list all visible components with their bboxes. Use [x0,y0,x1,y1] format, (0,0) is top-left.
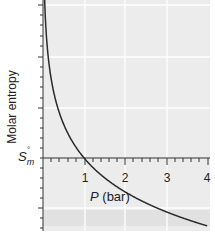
origin-label-base: S [18,149,27,164]
x-tick-label-4: 4 [204,171,211,185]
x-axis-label: P (bar) [90,189,130,204]
chart-canvas [0,0,215,243]
x-tick-label-2: 2 [122,171,129,185]
x-axis-label-variable: P [90,189,99,204]
origin-label-degree: ° [27,145,30,154]
y-axis-label: Molar entropy [5,62,19,152]
x-tick-label-3: 3 [164,171,171,185]
origin-label-s0m: S°m [18,149,34,167]
x-tick-label-1: 1 [82,171,89,185]
x-axis-label-unit: (bar) [102,189,129,204]
origin-label-subscript: m [27,157,35,167]
y-axis [38,0,43,231]
